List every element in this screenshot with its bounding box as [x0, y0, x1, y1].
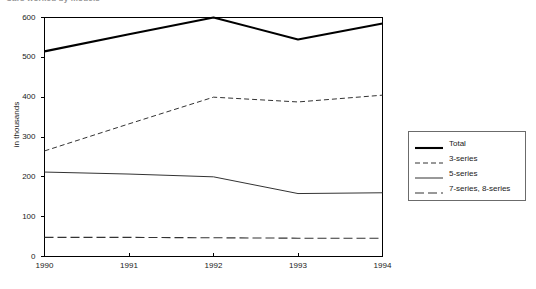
- x-axis-tick-label: 1992: [194, 261, 234, 270]
- plot-frame: [45, 18, 383, 257]
- data-series-line: [45, 172, 383, 194]
- y-axis-tick-label: 0: [6, 252, 36, 261]
- x-axis-tick-label: 1991: [109, 261, 149, 270]
- data-series-line: [45, 95, 383, 151]
- data-series-group: [45, 18, 383, 239]
- y-axis-tick-label: 500: [6, 52, 36, 61]
- y-axis-tick-label: 300: [6, 132, 36, 141]
- legend-label: Total: [449, 139, 466, 149]
- y-axis-tick-label: 400: [6, 92, 36, 101]
- legend-label: 7-series, 8-series: [449, 184, 510, 194]
- legend-item: 5-series: [414, 167, 477, 181]
- data-series-line: [45, 237, 383, 238]
- y-axis-tick-label: 600: [6, 13, 36, 22]
- y-axis-tick-label: 100: [6, 212, 36, 221]
- data-series-line: [45, 18, 383, 52]
- legend-swatch-icon: [414, 154, 444, 164]
- legend-label: 3-series: [449, 154, 477, 164]
- legend-swatch-icon: [414, 169, 444, 179]
- x-axis-tick-label: 1990: [25, 261, 65, 270]
- legend-item: 7-series, 8-series: [414, 182, 510, 196]
- x-axis-tick-label: 1994: [363, 261, 403, 270]
- y-axis-tick-label: 200: [6, 172, 36, 181]
- legend-item: 3-series: [414, 152, 477, 166]
- y-axis-ticks: [41, 18, 45, 257]
- chart-legend: Total3-series5-series7-series, 8-series: [408, 131, 526, 201]
- legend-item: Total: [414, 137, 466, 151]
- axes: [45, 18, 383, 257]
- line-chart: Cars worked by models in thousands 01002…: [0, 0, 536, 289]
- legend-label: 5-series: [449, 169, 477, 179]
- x-axis-ticks: [129, 253, 298, 257]
- legend-swatch-icon: [414, 184, 444, 194]
- legend-swatch-icon: [414, 139, 444, 149]
- x-axis-tick-label: 1993: [278, 261, 318, 270]
